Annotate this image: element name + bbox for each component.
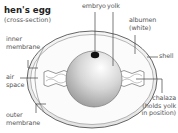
diagram-subtitle: (cross-section) (4, 16, 51, 24)
label-shell: shell (159, 53, 173, 61)
label-air-space: air space (6, 74, 24, 89)
label-inner-membrane: inner membrane (6, 36, 40, 51)
diagram-title: hen's egg (4, 5, 51, 15)
label-albumen: albumen (white) (129, 17, 156, 32)
label-yolk: yolk (107, 3, 120, 11)
embryo (91, 52, 99, 58)
yolk (66, 51, 122, 107)
label-chalaza: chalaza (holds yolk in position) (142, 95, 176, 118)
label-outer-membrane-line2: membrane (6, 120, 40, 128)
label-albumen-line2: (white) (129, 25, 156, 33)
label-chalaza-line3: in position) (142, 110, 176, 118)
label-embryo: embryo (82, 3, 106, 11)
label-outer-membrane: outer membrane (6, 112, 40, 127)
label-air-space-line2: space (6, 82, 24, 90)
label-inner-membrane-line2: membrane (6, 44, 40, 52)
